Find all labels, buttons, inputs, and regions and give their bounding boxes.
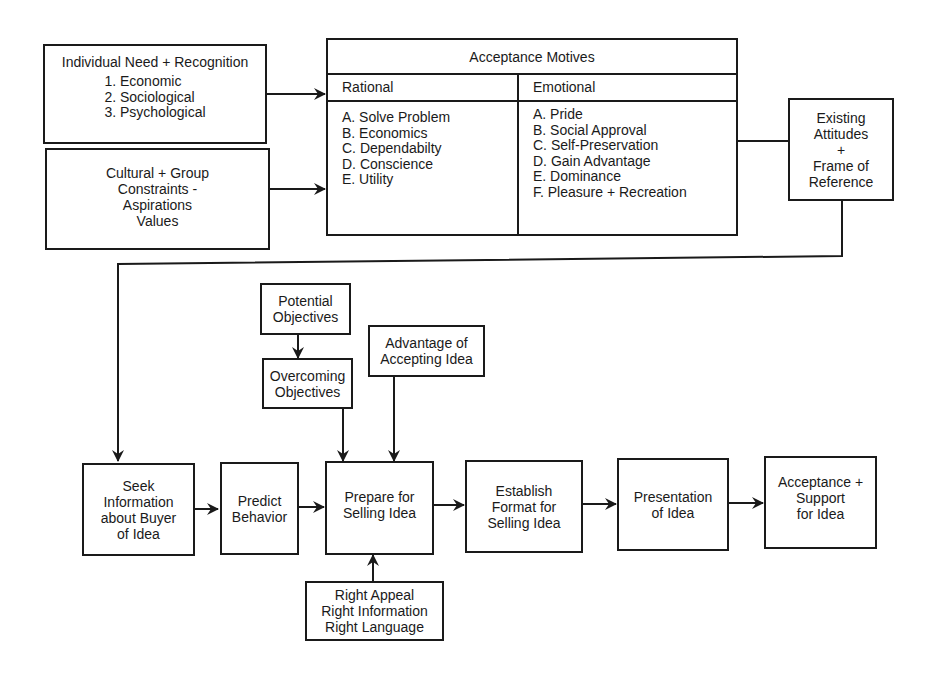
rational-item: B. Economics (342, 126, 517, 142)
advantage-box: Advantage of Accepting Idea (368, 325, 485, 377)
rational-item: A. Solve Problem (342, 110, 517, 126)
step-acceptance-support: Acceptance + Support for Idea (764, 456, 877, 549)
emotional-item: E. Dominance (533, 169, 736, 185)
advantage-line: Advantage of (385, 335, 468, 351)
step-line: Seek (123, 478, 155, 494)
emotional-item: D. Gain Advantage (533, 154, 736, 170)
attitudes-line: Existing (816, 110, 865, 126)
emotional-column: Emotional A. Pride B. Social Approval C.… (519, 73, 736, 234)
step-line: Format for (492, 499, 557, 515)
attitudes-line: Frame of (813, 158, 869, 174)
step-line: Establish (496, 483, 553, 499)
step-line: Behavior (232, 509, 287, 525)
step-line: Presentation (634, 489, 713, 505)
rational-item: E. Utility (342, 172, 517, 188)
acceptance-motives-title: Acceptance Motives (328, 40, 736, 75)
potential-line: Objectives (273, 309, 338, 325)
need-type-item: 3. Psychological (104, 105, 205, 121)
step-line: Selling Idea (487, 515, 560, 531)
attitudes-line: Reference (809, 174, 874, 190)
attitudes-line: Attitudes (814, 126, 868, 142)
emotional-item: A. Pride (533, 107, 736, 123)
rational-heading: Rational (328, 73, 517, 102)
overcoming-line: Objectives (275, 384, 340, 400)
attitudes-line: + (837, 142, 845, 158)
cultural-line: Cultural + Group (106, 165, 209, 181)
existing-attitudes-box: Existing Attitudes + Frame of Reference (788, 98, 894, 201)
advantage-line: Accepting Idea (380, 351, 473, 367)
right-appeal-box: Right Appeal Right Information Right Lan… (305, 581, 444, 641)
emotional-item: F. Pleasure + Recreation (533, 185, 736, 201)
individual-need-title: Individual Need + Recognition (62, 54, 248, 70)
step-prepare-selling: Prepare for Selling Idea (325, 461, 434, 555)
overcoming-line: Overcoming (270, 368, 345, 384)
need-types-list: 1. Economic 2. Sociological 3. Psycholog… (104, 74, 205, 121)
step-seek-information: Seek Information about Buyer of Idea (82, 463, 195, 556)
need-type-item: 1. Economic (104, 74, 205, 90)
step-line: about Buyer (101, 510, 177, 526)
appeal-line: Right Language (325, 619, 424, 635)
step-line: Acceptance + (778, 474, 863, 490)
step-line: Information (103, 494, 173, 510)
potential-objectives-box: Potential Objectives (260, 283, 351, 335)
appeal-line: Right Information (321, 603, 428, 619)
potential-line: Potential (278, 293, 332, 309)
cultural-line: Values (137, 213, 179, 229)
cultural-group-box: Cultural + Group Constraints - Aspiratio… (45, 148, 270, 250)
appeal-line: Right Appeal (335, 587, 414, 603)
step-line: for Idea (797, 506, 844, 522)
overcoming-objectives-box: Overcoming Objectives (262, 358, 353, 409)
step-predict-behavior: Predict Behavior (220, 462, 299, 555)
rational-list: A. Solve Problem B. Economics C. Dependa… (328, 102, 517, 188)
cultural-line: Constraints - (118, 181, 197, 197)
step-line: Prepare for (344, 489, 414, 505)
need-type-item: 2. Sociological (104, 90, 205, 106)
emotional-heading: Emotional (519, 73, 736, 102)
step-line: Support (796, 490, 845, 506)
rational-column: Rational A. Solve Problem B. Economics C… (328, 73, 519, 234)
emotional-list: A. Pride B. Social Approval C. Self-Pres… (519, 102, 736, 200)
step-line: of Idea (652, 505, 695, 521)
emotional-item: C. Self-Preservation (533, 138, 736, 154)
acceptance-motives-table: Acceptance Motives Rational A. Solve Pro… (326, 38, 738, 236)
individual-need-box: Individual Need + Recognition 1. Economi… (43, 44, 267, 144)
rational-item: D. Conscience (342, 157, 517, 173)
step-line: of Idea (117, 526, 160, 542)
step-presentation: Presentation of Idea (617, 458, 729, 551)
rational-item: C. Dependabilty (342, 141, 517, 157)
emotional-item: B. Social Approval (533, 123, 736, 139)
step-line: Predict (238, 493, 282, 509)
cultural-line: Aspirations (123, 197, 192, 213)
step-line: Selling Idea (343, 505, 416, 521)
step-establish-format: Establish Format for Selling Idea (465, 460, 583, 553)
